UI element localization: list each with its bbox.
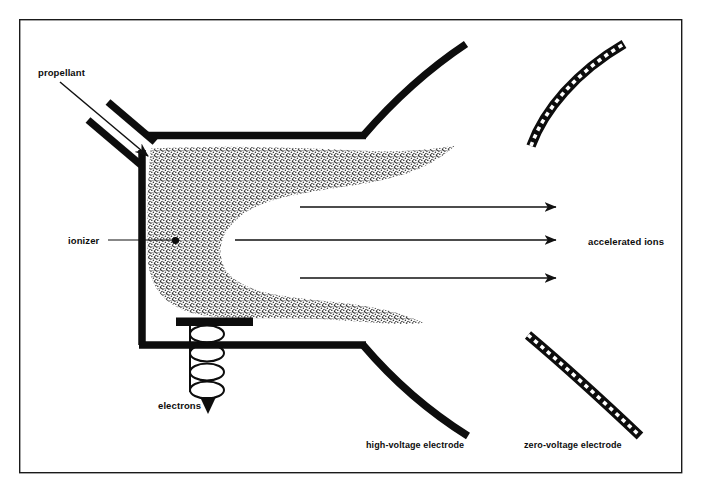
ion-thruster-diagram: propellant ionizer electrons accelerated… xyxy=(0,0,701,489)
zero-voltage-electrode-upper-hatch xyxy=(531,44,624,146)
high-voltage-electrode-upper xyxy=(363,44,466,136)
label-ionizer: ionizer xyxy=(68,235,100,246)
figure-frame xyxy=(20,20,682,473)
diagram-canvas: propellant ionizer electrons accelerated… xyxy=(0,0,701,489)
label-propellant: propellant xyxy=(38,67,86,78)
cathode-bar xyxy=(176,318,253,327)
ionizer-dot xyxy=(172,237,179,244)
ionized-propellant-plume xyxy=(149,148,450,323)
high-voltage-electrode-lower xyxy=(363,345,468,436)
electron-emitter-coil xyxy=(190,326,224,399)
label-zero-voltage-electrode: zero-voltage electrode xyxy=(524,440,622,450)
label-high-voltage-electrode: high-voltage electrode xyxy=(366,440,464,450)
ion-beam-arrow-group xyxy=(235,207,556,278)
label-accelerated-ions: accelerated ions xyxy=(588,236,664,247)
zero-voltage-electrode-upper xyxy=(531,44,624,146)
propellant-leader-arrow xyxy=(60,82,148,156)
label-electrons: electrons xyxy=(158,400,201,411)
electrons-arrow xyxy=(200,397,216,414)
inlet-pipe-upper xyxy=(108,102,155,142)
